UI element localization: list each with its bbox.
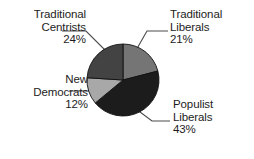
pie-label-traditional-centrists-value: 24% (2, 33, 86, 46)
pie-label-new-democrats-line1: New (0, 73, 88, 86)
pie-label-traditional-liberals: Traditional Liberals 21% (170, 8, 252, 46)
pie-label-traditional-centrists: Traditional Centrists 24% (2, 8, 86, 46)
pie-label-new-democrats-line2: Democrats (0, 86, 88, 99)
pie-label-populist-liberals-line2: Liberals (173, 111, 253, 124)
pie-chart: Traditional Centrists 24% Traditional Li… (0, 0, 254, 159)
pie-label-new-democrats: New Democrats 12% (0, 73, 88, 111)
pie-slices (87, 44, 159, 116)
pie-slice-traditional-centrists (87, 44, 123, 80)
pie-label-populist-liberals-line1: Populist (173, 98, 253, 111)
pie-label-traditional-centrists-line1: Traditional (2, 8, 86, 21)
pie-label-populist-liberals-value: 43% (173, 123, 253, 136)
pie-label-traditional-liberals-line2: Liberals (170, 21, 252, 34)
pie-label-traditional-liberals-value: 21% (170, 33, 252, 46)
pie-label-new-democrats-value: 12% (0, 98, 88, 111)
pie-label-traditional-liberals-line1: Traditional (170, 8, 252, 21)
pie-label-traditional-centrists-line2: Centrists (2, 21, 86, 34)
pie-label-populist-liberals: Populist Liberals 43% (173, 98, 253, 136)
